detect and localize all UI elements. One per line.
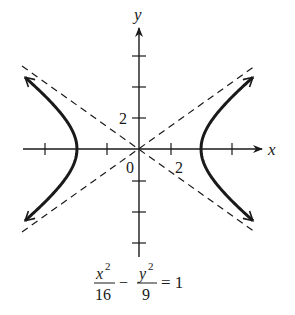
x-axis-label: x [267,140,276,159]
y-tick-label-2: 2 [119,110,127,127]
x-axis [23,143,262,155]
left-branch-upper [25,77,77,149]
denominator-16: 16 [95,286,111,303]
x-tick-label-2: 2 [175,159,183,176]
denominator-9: 9 [142,286,150,303]
equals-one: = 1 [161,273,183,292]
y-axis-label: y [132,5,142,24]
origin-label: 0 [126,159,134,176]
equation-term-x: x 2 16 [94,260,115,303]
equation-term-y: y 2 9 [137,260,157,303]
equation: x 2 16 − y 2 9 = 1 [94,260,183,303]
hyperbola-figure: y x 0 2 2 x 2 16 − y 2 9 = 1 [0,0,295,315]
numerator-y: y [137,265,147,283]
numerator-y-exponent: 2 [148,260,154,272]
numerator-x: x [95,265,103,282]
y-axis [132,28,146,257]
left-branch-lower [25,149,77,221]
minus-sign: − [119,274,128,291]
right-branch-upper [201,77,253,149]
right-branch-lower [201,149,253,221]
numerator-x-exponent: 2 [105,260,111,272]
